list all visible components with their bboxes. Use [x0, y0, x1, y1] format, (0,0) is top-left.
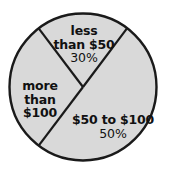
pie-chart: less than $50 30% more than $100 $50 to … [0, 0, 172, 174]
pie-chart-graphic [0, 0, 172, 174]
